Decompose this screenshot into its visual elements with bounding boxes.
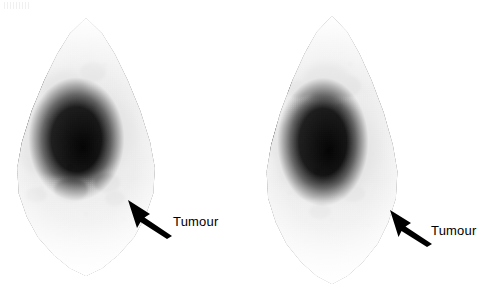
right-organ-silhouette	[256, 16, 408, 284]
right-scan-field	[256, 16, 408, 284]
scintigram-figure: Tumour	[0, 0, 490, 294]
right-tumour-arrow	[388, 208, 436, 248]
right-uptake-gradient	[256, 16, 408, 284]
left-tumour-label: Tumour	[173, 215, 219, 228]
right-tumour-label: Tumour	[431, 224, 477, 237]
right-scintigram	[256, 16, 408, 284]
page-edge-artefact	[4, 2, 30, 9]
left-tumour-arrow	[126, 198, 176, 240]
